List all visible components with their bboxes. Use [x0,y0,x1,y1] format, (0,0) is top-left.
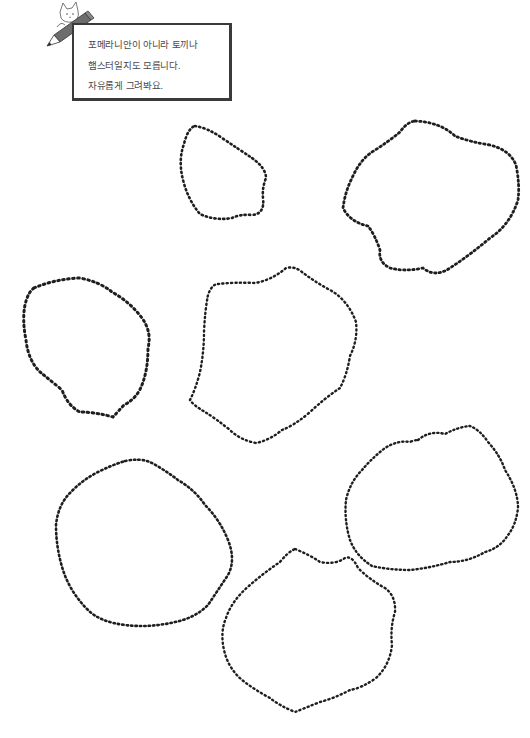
outline-3[interactable] [24,278,149,417]
outline-4[interactable] [190,268,356,444]
drawing-outlines [0,0,530,738]
outline-5[interactable] [346,426,519,570]
outline-7[interactable] [222,549,395,712]
outline-1[interactable] [181,126,266,219]
outline-6[interactable] [56,460,232,626]
outline-2[interactable] [343,121,519,273]
